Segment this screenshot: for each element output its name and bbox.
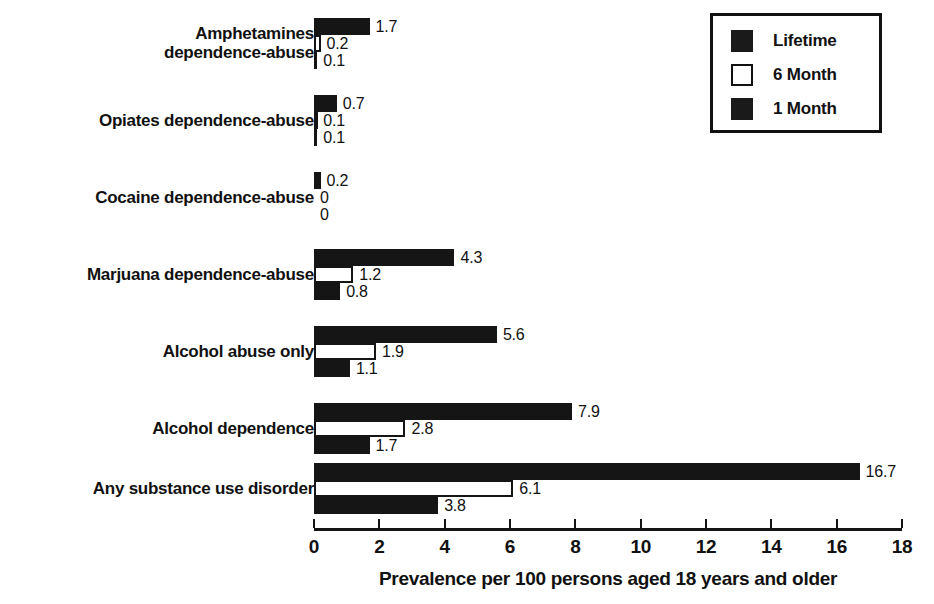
bar-value-label: 0.2 [327, 35, 349, 53]
bar-value-label: 0.8 [346, 283, 368, 301]
x-axis-tick-label: 14 [761, 536, 782, 558]
x-axis-tick [313, 519, 315, 528]
bar-lifetime[interactable] [314, 403, 572, 420]
x-axis-tick [705, 519, 707, 528]
x-axis-tick-label: 6 [505, 536, 515, 558]
bar-lifetime[interactable] [314, 463, 860, 480]
bar-6-month[interactable] [314, 343, 376, 360]
bar-6-month[interactable] [314, 480, 513, 497]
category-group: Any substance use disorder16.76.13.8 [0, 463, 934, 514]
x-axis-tick [509, 519, 511, 528]
bar-value-label: 1.1 [356, 360, 378, 378]
bar-value-label: 0.7 [343, 95, 365, 113]
bar-value-label: 16.7 [866, 463, 896, 481]
category-label: Alcohol abuse only [4, 342, 314, 362]
x-axis-tick-label: 0 [309, 536, 319, 558]
bar-1-month[interactable] [314, 437, 370, 454]
bar-lifetime[interactable] [314, 326, 497, 343]
category-label: Amphetamines dependence-abuse [4, 24, 314, 63]
bar-1-month[interactable] [314, 497, 438, 514]
bar-lifetime[interactable] [314, 249, 454, 266]
category-group: Amphetamines dependence-abuse1.70.20.1 [0, 18, 934, 69]
bar-value-label: 0 [320, 189, 329, 207]
bar-value-label: 7.9 [578, 403, 600, 421]
x-axis: 024681012141618 [314, 528, 902, 529]
category-group: Alcohol abuse only5.61.91.1 [0, 326, 934, 377]
bar-value-label: 4.3 [460, 249, 482, 267]
bar-value-label: 1.2 [359, 266, 381, 284]
x-axis-tick-label: 10 [630, 536, 651, 558]
category-label: Marjuana dependence-abuse [4, 265, 314, 285]
bar-6-month[interactable] [314, 35, 321, 52]
bar-lifetime[interactable] [314, 172, 321, 189]
bar-value-label: 0.1 [323, 112, 345, 130]
x-axis-tick-label: 4 [440, 536, 450, 558]
bar-value-label: 1.7 [376, 437, 398, 455]
category-label: Cocaine dependence-abuse [4, 188, 314, 208]
x-axis-tick [378, 519, 380, 528]
category-label: Alcohol dependence [4, 419, 314, 439]
bar-value-label: 0.1 [323, 52, 345, 70]
bar-6-month[interactable] [314, 266, 353, 283]
category-label: Any substance use disorder [4, 479, 314, 499]
category-group: Alcohol dependence7.92.81.7 [0, 403, 934, 454]
bar-value-label: 2.8 [411, 420, 433, 438]
bar-value-label: 5.6 [503, 326, 525, 344]
x-axis-tick-label: 2 [374, 536, 384, 558]
category-group: Opiates dependence-abuse0.70.10.1 [0, 95, 934, 146]
x-axis-tick-label: 18 [892, 536, 913, 558]
bar-1-month[interactable] [314, 360, 350, 377]
x-axis-tick [574, 519, 576, 528]
bar-value-label: 1.9 [382, 343, 404, 361]
category-label: Opiates dependence-abuse [4, 111, 314, 131]
x-axis-tick [640, 519, 642, 528]
plot-area: Amphetamines dependence-abuse1.70.20.1Op… [0, 0, 934, 604]
x-axis-tick [444, 519, 446, 528]
bar-1-month[interactable] [314, 129, 317, 146]
bar-1-month[interactable] [314, 52, 317, 69]
x-axis-tick-label: 8 [570, 536, 580, 558]
bar-lifetime[interactable] [314, 18, 370, 35]
x-axis-tick-label: 16 [826, 536, 847, 558]
bar-1-month[interactable] [314, 283, 340, 300]
bar-6-month[interactable] [314, 112, 318, 129]
x-axis-line [314, 528, 902, 531]
x-axis-tick [836, 519, 838, 528]
x-axis-tick-label: 12 [696, 536, 717, 558]
bar-value-label: 0.2 [327, 172, 349, 190]
bar-value-label: 0.1 [323, 129, 345, 147]
bar-value-label: 6.1 [519, 480, 541, 498]
bar-value-label: 3.8 [444, 497, 466, 515]
bar-lifetime[interactable] [314, 95, 337, 112]
x-axis-title: Prevalence per 100 persons aged 18 years… [314, 568, 902, 590]
chart-figure: Lifetime6 Month1 Month Amphetamines depe… [0, 0, 934, 604]
bar-value-label: 1.7 [376, 18, 398, 36]
bar-value-label: 0 [320, 206, 329, 224]
x-axis-tick [901, 519, 903, 528]
x-axis-tick [770, 519, 772, 528]
category-group: Cocaine dependence-abuse0.200 [0, 172, 934, 223]
bar-6-month[interactable] [314, 420, 405, 437]
category-group: Marjuana dependence-abuse4.31.20.8 [0, 249, 934, 300]
